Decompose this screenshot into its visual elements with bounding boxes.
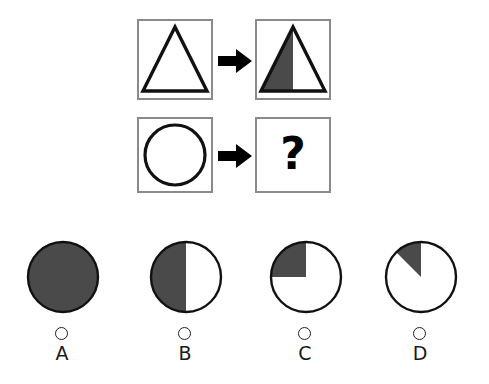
option-a-radio-button[interactable] [55,327,68,340]
triangle-outline-shape [139,21,211,98]
answer-option-c[interactable]: C [255,225,355,375]
matrix-cell-row2-source [137,117,213,193]
matrix-cell-row1-target [255,19,331,100]
arrow-right-icon-row2 [218,143,252,169]
matrix-cell-row2-target-unknown: ? [255,117,331,193]
matrix-cell-row1-source [137,19,213,100]
option-d-radio-button[interactable] [413,327,426,340]
answer-option-b[interactable]: B [135,225,235,375]
option-b-radio-button[interactable] [178,327,191,340]
puzzle-canvas: ? A B [0,0,489,384]
triangle-half-shaded-shape [257,21,329,98]
option-c-circle-quarter-shape [268,239,344,315]
analogy-matrix: ? [0,0,489,210]
circle-outline-shape [139,119,211,191]
answer-options: A B C [0,225,489,384]
option-d-label: D [370,344,470,363]
question-mark-placeholder: ? [257,119,329,191]
option-c-radio-button[interactable] [298,327,311,340]
answer-option-d[interactable]: D [370,225,470,375]
arrow-right-icon-row1 [218,48,252,74]
option-c-label: C [255,344,355,363]
option-a-label: A [12,344,112,363]
option-b-circle-half-shape [148,239,224,315]
option-d-circle-eighth-shape [383,239,459,315]
answer-option-a[interactable]: A [12,225,112,375]
option-a-circle-full-shape [25,239,101,315]
option-b-label: B [135,344,235,363]
